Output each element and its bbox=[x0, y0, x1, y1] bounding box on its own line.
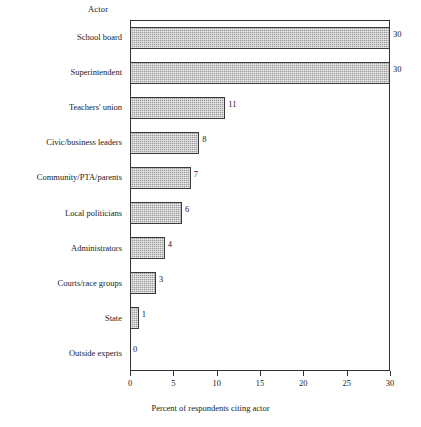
category-label: Community/PTA/parents bbox=[0, 160, 126, 195]
category-label: Courts/race groups bbox=[0, 266, 126, 301]
x-tick-mark bbox=[260, 371, 261, 376]
category-label: Outside experts bbox=[0, 336, 126, 371]
x-tick-label: 0 bbox=[128, 379, 132, 388]
bar-value-label: 30 bbox=[393, 30, 402, 39]
x-tick-mark bbox=[347, 371, 348, 376]
bar-value-label: 3 bbox=[159, 275, 163, 284]
bar-row: 4 bbox=[130, 231, 390, 266]
x-tick-mark bbox=[173, 371, 174, 376]
bar bbox=[130, 307, 139, 329]
x-tick-mark bbox=[217, 371, 218, 376]
bar-row: 6 bbox=[130, 196, 390, 231]
bar bbox=[130, 202, 182, 224]
bar-value-label: 4 bbox=[168, 240, 172, 249]
bar-series: 3030118764310 bbox=[130, 20, 390, 371]
bar-value-label: 1 bbox=[142, 310, 146, 319]
x-tick-mark bbox=[390, 371, 391, 376]
bar-row: 7 bbox=[130, 160, 390, 195]
bar bbox=[130, 62, 390, 84]
bar-chart: Actor School boardSuperintendentTeachers… bbox=[0, 0, 421, 427]
category-label: Teachers' union bbox=[0, 90, 126, 125]
bar-value-label: 30 bbox=[393, 65, 402, 74]
bar-value-label: 8 bbox=[202, 135, 206, 144]
bar-row: 3 bbox=[130, 266, 390, 301]
bar-value-label: 11 bbox=[228, 100, 236, 109]
x-axis-ticks: 051015202530 bbox=[130, 371, 390, 395]
bar-value-label: 0 bbox=[133, 345, 137, 354]
bar bbox=[130, 167, 191, 189]
category-label: Civic/business leaders bbox=[0, 125, 126, 160]
bar bbox=[130, 27, 390, 49]
bar bbox=[130, 97, 225, 119]
category-label: Local politicians bbox=[0, 196, 126, 231]
bar bbox=[130, 272, 156, 294]
x-tick-label: 20 bbox=[299, 379, 308, 388]
x-tick-mark bbox=[303, 371, 304, 376]
bar-row: 30 bbox=[130, 55, 390, 90]
category-label: State bbox=[0, 301, 126, 336]
x-tick-label: 10 bbox=[212, 379, 221, 388]
category-label: Administrators bbox=[0, 231, 126, 266]
bar bbox=[130, 237, 165, 259]
x-tick-mark bbox=[130, 371, 131, 376]
x-tick-label: 25 bbox=[342, 379, 351, 388]
x-tick-label: 30 bbox=[386, 379, 395, 388]
x-tick-label: 5 bbox=[171, 379, 175, 388]
bar bbox=[130, 132, 199, 154]
bar-row: 8 bbox=[130, 125, 390, 160]
category-label: Superintendent bbox=[0, 55, 126, 90]
category-label: School board bbox=[0, 20, 126, 55]
bar-row: 11 bbox=[130, 90, 390, 125]
x-axis-title: Percent of respondents citing actor bbox=[0, 403, 421, 413]
x-tick-label: 15 bbox=[256, 379, 265, 388]
y-axis-title: Actor bbox=[88, 4, 108, 14]
bar-value-label: 7 bbox=[194, 170, 198, 179]
bar-row: 0 bbox=[130, 336, 390, 371]
bar-row: 1 bbox=[130, 301, 390, 336]
y-axis-category-labels: School boardSuperintendentTeachers' unio… bbox=[0, 20, 126, 371]
bar-value-label: 6 bbox=[185, 205, 189, 214]
bar-row: 30 bbox=[130, 20, 390, 55]
